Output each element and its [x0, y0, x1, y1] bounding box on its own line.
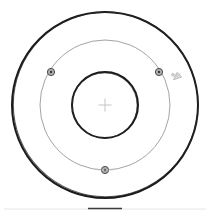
cursor-arrow-icon[interactable] — [170, 69, 183, 82]
node-upper-right[interactable] — [155, 68, 162, 75]
node-upper-left-core — [50, 71, 52, 73]
node-upper-right-core — [158, 71, 160, 73]
footer-baseline — [4, 209, 206, 210]
center-crosshair-icon[interactable] — [99, 99, 112, 112]
drawing-canvas[interactable] — [0, 0, 210, 217]
node-upper-left[interactable] — [47, 68, 54, 75]
node-bottom[interactable] — [97, 166, 113, 173]
circles-diagram — [0, 0, 210, 217]
cursor-arrow-shape — [170, 70, 182, 82]
